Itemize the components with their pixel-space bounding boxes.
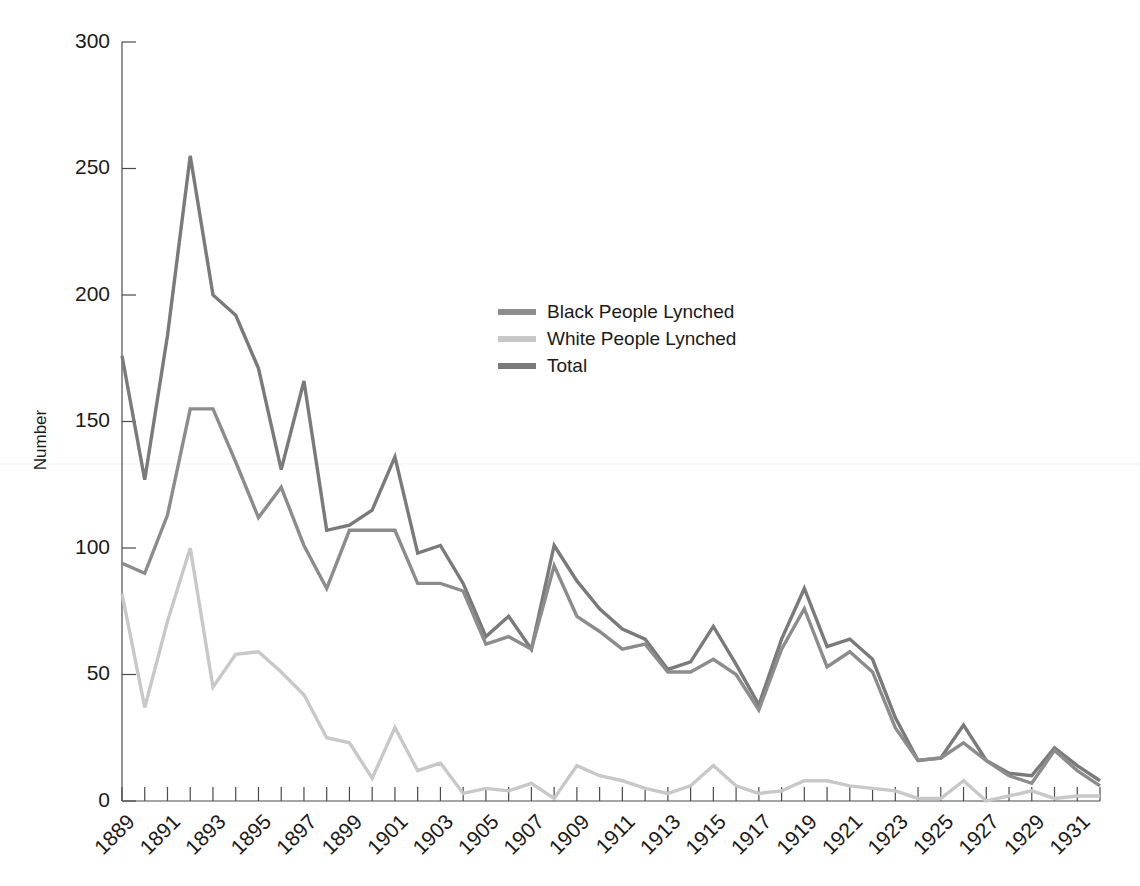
y-axis-tick-label: 250 — [75, 155, 110, 178]
x-axis-tick-label: 1925 — [908, 810, 957, 859]
x-axis-tick-label: 1889 — [90, 810, 139, 859]
x-axis-tick-label: 1911 — [591, 810, 639, 858]
y-axis-tick-label: 50 — [87, 661, 110, 684]
chart-series-lines — [122, 156, 1100, 801]
x-axis-tick-label: 1927 — [954, 810, 1003, 859]
y-axis-tick-label: 150 — [75, 408, 110, 431]
legend-label-0: Black People Lynched — [547, 301, 734, 322]
y-axis-tick-label: 200 — [75, 282, 110, 305]
y-axis-title: Number — [31, 409, 50, 470]
x-axis-tick-label: 1905 — [453, 810, 502, 859]
x-axis-tick-label: 1923 — [863, 810, 912, 859]
x-axis-tick-label: 1893 — [181, 810, 230, 859]
chart-canvas: 050100150200250300 188918911893189518971… — [0, 0, 1140, 886]
x-axis-tick-label: 1919 — [772, 810, 821, 859]
x-axis-tick-label: 1917 — [726, 810, 775, 859]
x-axis-tick-label: 1903 — [408, 810, 457, 859]
chart-legend: Black People LynchedWhite People Lynched… — [498, 301, 736, 376]
legend-label-1: White People Lynched — [547, 328, 736, 349]
x-axis-tick-label: 1899 — [317, 810, 366, 859]
series-line-white-people-lynched — [122, 548, 1100, 801]
x-axis-tick-label: 1891 — [135, 810, 184, 859]
x-axis-tick-label: 1895 — [226, 810, 275, 859]
x-axis-tick-label: 1913 — [635, 810, 684, 859]
series-line-black-people-lynched — [122, 409, 1100, 786]
x-axis-tick-label: 1897 — [271, 810, 320, 859]
y-axis-tick-label: 100 — [75, 535, 110, 558]
series-line-total — [122, 156, 1100, 781]
x-axis-tick-label: 1907 — [499, 810, 548, 859]
y-axis-tick-label: 0 — [98, 788, 110, 811]
y-axis-tick-label: 300 — [75, 29, 110, 52]
x-axis-tick-label: 1909 — [544, 810, 593, 859]
x-axis-tick-label: 1921 — [817, 810, 866, 859]
x-axis-tick-label: 1929 — [999, 810, 1048, 859]
lynching-statistics-line-chart: 050100150200250300 188918911893189518971… — [0, 0, 1140, 886]
y-axis-tick-labels: 050100150200250300 — [75, 29, 110, 811]
legend-label-2: Total — [547, 355, 587, 376]
x-axis-tick-label: 1901 — [362, 810, 411, 859]
x-axis-tick-labels: 1889189118931895189718991901190319051907… — [90, 810, 1095, 859]
x-axis-tick-label: 1915 — [681, 810, 730, 859]
x-axis-tick-label: 1931 — [1045, 810, 1094, 859]
